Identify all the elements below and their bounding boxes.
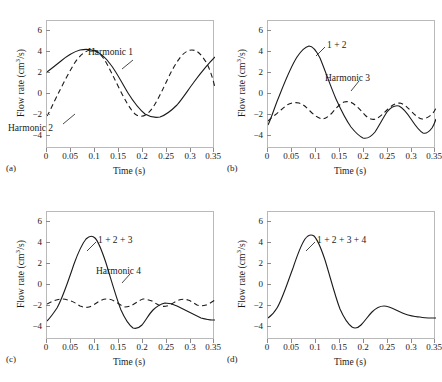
curve-label-sum-1-2: 1 + 2: [327, 41, 347, 51]
x-axis-label-b: Time (s): [265, 166, 435, 176]
curve-label-sum-1-2-3-4: 1 + 2 + 3 + 4: [317, 236, 366, 246]
plot-svg-a: [47, 21, 215, 149]
plot-svg-b: [268, 21, 436, 149]
curve-harmonic-1: [47, 49, 215, 117]
curve-label-sum-1-2-3: 1 + 2 + 3: [98, 236, 132, 246]
y-axis-label-b: Flow rate (cm3/s): [235, 28, 249, 138]
panel-d: Flow rate (cm3/s) 6 4 2 0 −2 −4 0 0.05: [221, 191, 442, 382]
x-axis-label-a: Time (s): [44, 166, 214, 176]
curve-sum-1-2-3-4: [268, 235, 436, 328]
plot-svg-d: [268, 212, 436, 340]
curve-sum-1-2-3: [47, 236, 215, 328]
y-axis-label-a: Flow rate (cm3/s): [14, 28, 28, 138]
y-axis-label-d: Flow rate (cm3/s): [235, 219, 249, 329]
curve-label-harmonic-3: Harmonic 3: [325, 74, 370, 84]
y-axis-label-c: Flow rate (cm3/s): [14, 219, 28, 329]
curve-harmonic-2: [47, 50, 215, 116]
panel-c: Flow rate (cm3/s) 6 4 2 0 −2 −4 0 0.05: [0, 191, 221, 382]
plot-area-a: [46, 20, 214, 148]
panel-letter-c: (c): [6, 354, 16, 364]
curve-sum-1-2: [268, 46, 436, 138]
curve-label-harmonic-2: Harmonic 2: [8, 124, 53, 134]
panel-letter-d: (d): [227, 354, 238, 364]
curve-harmonic-4: [47, 299, 215, 307]
harmonic-decomposition-figure: Flow rate (cm3/s) 6 4 2 0 −2 −4 0 0.05: [0, 0, 442, 382]
panel-letter-b: (b): [227, 163, 238, 173]
plot-area-d: [267, 211, 435, 339]
curve-label-harmonic-4: Harmonic 4: [96, 267, 141, 277]
plot-area-b: [267, 20, 435, 148]
x-axis-label-d: Time (s): [265, 357, 435, 367]
x-axis-label-c: Time (s): [44, 357, 214, 367]
curve-label-harmonic-1: Harmonic 1: [88, 48, 133, 58]
panel-letter-a: (a): [6, 163, 16, 173]
panel-a: Flow rate (cm3/s) 6 4 2 0 −2 −4 0 0.05: [0, 0, 221, 191]
panel-b: Flow rate (cm3/s) 6 4 2 0 −2 −4 0 0.05: [221, 0, 442, 191]
